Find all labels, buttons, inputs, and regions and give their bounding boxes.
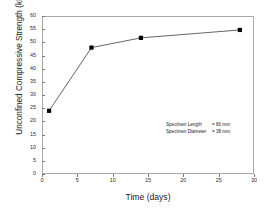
y-tick-mark xyxy=(42,16,45,17)
y-tick-label: 40 xyxy=(0,66,36,71)
y-tick-label: 5 xyxy=(0,158,36,163)
y-axis-tick-labels: 051015202530354045505560 xyxy=(0,16,36,174)
data-point-marker xyxy=(139,36,143,40)
series-line xyxy=(49,30,240,111)
x-tick-mark xyxy=(113,174,114,177)
y-tick-label: 45 xyxy=(0,53,36,58)
y-tick-mark xyxy=(42,108,45,109)
y-tick-mark xyxy=(42,42,45,43)
x-tick-label: 0 xyxy=(30,178,54,183)
x-tick-label: 15 xyxy=(136,178,160,183)
x-tick-mark xyxy=(183,174,184,177)
y-tick-label: 35 xyxy=(0,79,36,84)
x-tick-mark xyxy=(42,174,43,177)
y-tick-mark xyxy=(42,56,45,57)
y-tick-mark xyxy=(42,82,45,83)
x-tick-label: 25 xyxy=(207,178,231,183)
x-tick-label: 10 xyxy=(101,178,125,183)
y-tick-mark xyxy=(42,69,45,70)
annotation-row-diameter: Specimen Diameter = 38 mm xyxy=(166,128,230,135)
chart-page: Unconfined Compressive Strength (kPa) 05… xyxy=(0,0,279,215)
annotation-diameter-value: = 38 mm xyxy=(212,128,230,135)
y-tick-label: 55 xyxy=(0,26,36,31)
annotation-row-length: Specimen Length = 80 mm xyxy=(166,121,230,128)
y-tick-mark xyxy=(42,135,45,136)
y-tick-label: 20 xyxy=(0,119,36,124)
y-tick-mark xyxy=(42,161,45,162)
data-point-marker xyxy=(47,109,51,113)
y-tick-label: 25 xyxy=(0,105,36,110)
specimen-annotation: Specimen Length = 80 mm Specimen Diamete… xyxy=(166,121,230,135)
y-tick-mark xyxy=(42,95,45,96)
chart-data-layer xyxy=(42,16,254,174)
x-tick-label: 5 xyxy=(65,178,89,183)
y-tick-mark xyxy=(42,29,45,30)
annotation-diameter-key: Specimen Diameter xyxy=(166,128,212,135)
x-tick-label: 30 xyxy=(242,178,266,183)
data-point-marker xyxy=(89,46,93,50)
annotation-length-key: Specimen Length xyxy=(166,121,212,128)
y-tick-mark xyxy=(42,148,45,149)
data-point-marker xyxy=(238,28,242,32)
x-axis-title: Time (days) xyxy=(42,192,254,202)
x-tick-mark xyxy=(148,174,149,177)
y-tick-label: 30 xyxy=(0,92,36,97)
y-tick-label: 0 xyxy=(0,171,36,176)
x-tick-mark xyxy=(219,174,220,177)
x-tick-label: 20 xyxy=(171,178,195,183)
y-tick-label: 10 xyxy=(0,145,36,150)
x-tick-mark xyxy=(77,174,78,177)
y-tick-label: 15 xyxy=(0,132,36,137)
y-tick-label: 60 xyxy=(0,13,36,18)
x-tick-mark xyxy=(254,174,255,177)
y-tick-label: 50 xyxy=(0,40,36,45)
annotation-length-value: = 80 mm xyxy=(212,121,230,128)
y-tick-mark xyxy=(42,121,45,122)
